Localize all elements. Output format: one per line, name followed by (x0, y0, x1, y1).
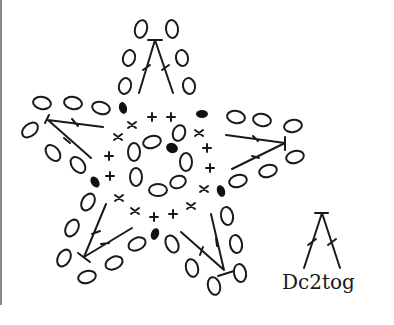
star-point-lower-left (54, 191, 147, 285)
dc2tog-symbol (304, 213, 340, 268)
legend-label-dc2tog: Dc2tog (282, 270, 355, 294)
star-point-left (19, 96, 111, 176)
single-crochet-ring (105, 113, 214, 221)
center-slip-stitch (165, 141, 180, 155)
star-point-lower-right (163, 206, 248, 296)
star-point-top (117, 19, 196, 96)
center-chain-ring (128, 123, 192, 196)
star-point-right (226, 110, 305, 190)
slip-stitches (89, 101, 227, 241)
